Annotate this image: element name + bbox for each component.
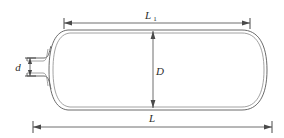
dimension-L-right-arrowhead [264,125,272,130]
dimension-L1-label: L [144,9,151,21]
dimension-D-top-arrowhead [151,31,156,39]
dimension-L-label: L [148,112,155,124]
dimension-L1-right-arrowhead [242,21,250,26]
dimension-L-group: L [33,112,272,133]
vessel-drawing-canvas: L 1 D d [0,0,284,138]
dimension-L-left-arrowhead [33,125,41,130]
dimension-L1-group: L 1 [64,9,250,29]
nozzle-group [27,46,51,89]
dimension-D-label: D [155,65,164,77]
dimension-d-label: d [15,61,21,73]
vessel-dimension-drawing: L 1 D d [0,0,284,138]
dimension-L1-subscript: 1 [153,15,157,23]
dimension-L1-left-arrowhead [64,21,72,26]
dimension-D-group: D [151,31,169,108]
